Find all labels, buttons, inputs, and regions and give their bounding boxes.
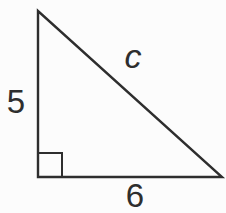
right-angle-marker-icon <box>38 153 62 177</box>
vertical-leg-label: 5 <box>7 83 25 120</box>
triangle-outline <box>38 11 222 177</box>
horizontal-leg-label: 6 <box>126 177 144 213</box>
triangle-figure: 5 6 c <box>0 0 226 213</box>
hypotenuse-label: c <box>125 37 142 75</box>
triangle-diagram: 5 6 c <box>0 0 226 213</box>
